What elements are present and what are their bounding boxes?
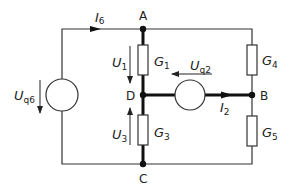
voltage-source-uq2 (175, 80, 205, 110)
node-d-dot (140, 92, 146, 98)
node-c-dot (140, 161, 146, 167)
node-a-dot (140, 26, 146, 32)
node-label-a: A (139, 9, 148, 23)
wire-top-left (62, 29, 143, 79)
wire-bottom-left (62, 111, 143, 164)
node-label-b: B (260, 89, 268, 103)
current-arrow-i2-icon (221, 92, 233, 99)
current-arrow-i6-icon (90, 26, 101, 32)
wire-top-right (143, 29, 252, 45)
label-uq6: Uq6 (14, 88, 35, 105)
node-label-d: D (126, 89, 135, 103)
label-uq2: Uq2 (190, 58, 211, 75)
conductance-g1 (138, 45, 148, 75)
label-g4: G4 (262, 53, 278, 70)
label-g1: G1 (154, 54, 170, 71)
label-u1: U1 (112, 55, 127, 72)
label-g3: G3 (154, 125, 170, 142)
conductance-g3 (138, 115, 148, 145)
wire-bottom-right (143, 146, 252, 164)
label-g5: G5 (262, 125, 278, 142)
circuit-diagram: A D C B I6 I2 U1 U3 Uq6 Uq2 G1 G3 G4 G5 (0, 0, 289, 195)
node-b-dot (249, 92, 255, 98)
label-i6: I6 (95, 10, 105, 26)
label-i2: I2 (220, 100, 230, 117)
node-label-c: C (139, 172, 147, 186)
label-u3: U3 (112, 127, 127, 144)
voltage-source-uq6 (46, 79, 78, 111)
conductance-g5 (247, 116, 257, 146)
conductance-g4 (247, 45, 257, 75)
